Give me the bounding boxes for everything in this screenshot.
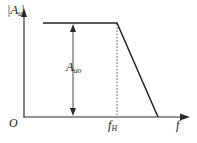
corner-frequency-label-subscript: H bbox=[111, 124, 117, 133]
x-axis-arrowhead bbox=[180, 114, 190, 121]
plot-canvas bbox=[0, 0, 197, 143]
y-axis-label-subscript: u bbox=[18, 9, 22, 18]
frequency-response-figure: |Au| O Auo fH f bbox=[0, 0, 197, 143]
y-axis-label: |Au| bbox=[7, 4, 24, 17]
corner-frequency-label: fH bbox=[108, 119, 117, 132]
midband-gain-label: Auo bbox=[66, 61, 81, 74]
gain-measure-arrowhead-bottom bbox=[70, 108, 76, 116]
midband-gain-label-subscript: uo bbox=[74, 66, 82, 75]
midband-gain-label-main: A bbox=[66, 60, 74, 74]
gain-response-curve bbox=[43, 23, 158, 117]
y-axis-label-close: | bbox=[22, 3, 25, 17]
y-axis-label-main: |A bbox=[7, 3, 18, 17]
gain-measure-arrowhead-top bbox=[70, 24, 76, 32]
origin-label: O bbox=[9, 117, 18, 129]
x-axis-label: f bbox=[176, 119, 179, 132]
